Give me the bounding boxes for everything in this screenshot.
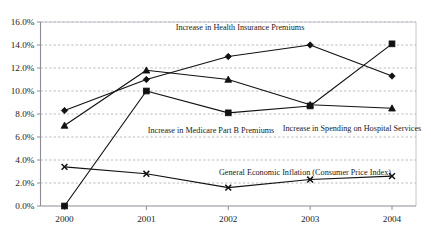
series-annotation-2: Increase in Spending on Hospital Service… — [283, 124, 421, 133]
y-axis-tick-label: 12.0% — [11, 63, 35, 73]
y-axis-tick-label: 2.0% — [15, 178, 34, 188]
y-axis-tick-label: 0.0% — [15, 201, 34, 211]
x-axis-tick-label: 2003 — [301, 214, 320, 224]
series-1-marker-0 — [62, 203, 68, 209]
y-axis-tick-label: 8.0% — [15, 109, 34, 119]
series-1-marker-4 — [389, 41, 395, 47]
chart-container: 0.0%2.0%4.0%6.0%8.0%10.0%12.0%14.0%16.0%… — [0, 0, 431, 242]
y-axis-tick-label: 10.0% — [11, 86, 35, 96]
x-axis-tick-label: 2001 — [137, 214, 156, 224]
series-annotation-0: Increase in Health Insurance Premiums — [176, 23, 305, 32]
series-annotation-3: General Economic Inflation (Consumer Pri… — [219, 168, 391, 177]
series-annotation-1: Increase in Medicare Part B Premiums — [148, 126, 275, 135]
y-axis-tick-label: 16.0% — [11, 17, 35, 27]
series-1-marker-2 — [225, 110, 231, 116]
y-axis-tick-label: 6.0% — [15, 132, 34, 142]
series-1-marker-1 — [143, 88, 149, 94]
x-axis-tick-label: 2002 — [219, 214, 238, 224]
x-axis-tick-label: 2004 — [383, 214, 402, 224]
y-axis-tick-label: 4.0% — [15, 155, 34, 165]
x-axis-tick-label: 2000 — [55, 214, 74, 224]
y-axis-tick-label: 14.0% — [11, 40, 35, 50]
line-chart: 0.0%2.0%4.0%6.0%8.0%10.0%12.0%14.0%16.0%… — [0, 0, 431, 242]
